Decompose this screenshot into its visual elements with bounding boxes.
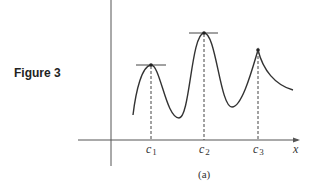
label-c2: c2 (199, 142, 210, 157)
label-c1: c1 (146, 142, 157, 157)
label-c3: c3 (253, 142, 264, 157)
x-axis-label: x (292, 142, 299, 156)
function-graph: c1 c2 c3 x (a) (0, 0, 312, 181)
subfigure-label: (a) (198, 168, 211, 181)
function-curve (133, 33, 293, 118)
